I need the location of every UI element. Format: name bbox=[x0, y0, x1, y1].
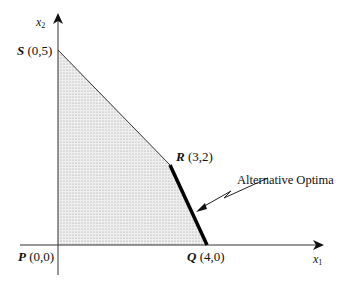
point-label-q: Q (4,0) bbox=[187, 250, 225, 263]
feasible-region bbox=[58, 50, 207, 245]
point-label-p: P (0,0) bbox=[18, 250, 54, 263]
x-axis-label: x1 bbox=[313, 253, 322, 267]
point-label-r: R (3,2) bbox=[176, 150, 213, 163]
y-axis-label: x2 bbox=[36, 16, 45, 30]
alternative-optima-label: Alternative Optima bbox=[237, 174, 334, 187]
point-label-s: S (0,5) bbox=[17, 44, 52, 57]
pointer-arrowhead-icon bbox=[196, 203, 207, 212]
